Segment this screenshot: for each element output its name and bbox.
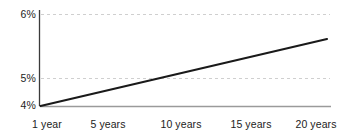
x-tick-10-years: 10 years	[160, 118, 201, 130]
y-tick-label: 6%	[10, 9, 36, 20]
y-tick-label: 4%	[10, 100, 36, 111]
y-tick-4-percent: 4%	[8, 100, 36, 111]
x-tick-15-years: 15 years	[230, 118, 271, 130]
x-tick-20-years: 20 years	[295, 118, 336, 130]
chart-plot-area	[0, 0, 351, 137]
y-tick-6-percent: 6%	[8, 9, 36, 20]
x-tick-1-year: 1 year	[32, 118, 62, 130]
line-chart: 6% 5% 4% 1 year 5 years 10 years 15 year…	[0, 0, 351, 137]
x-tick-5-years: 5 years	[90, 118, 125, 130]
series-line	[41, 39, 328, 106]
y-tick-5-percent: 5%	[8, 73, 36, 84]
y-tick-label: 5%	[10, 73, 36, 84]
